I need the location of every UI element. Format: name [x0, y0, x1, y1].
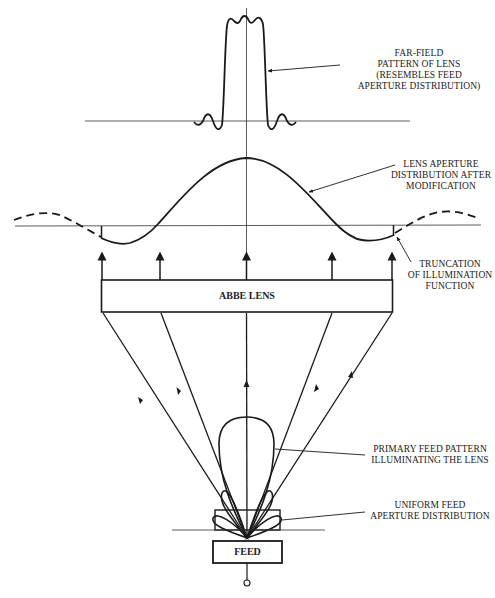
aperture-leader: [309, 165, 395, 192]
primary-feed-leader: [275, 449, 365, 455]
far-field-leader: [268, 65, 340, 71]
incident-rays: [103, 313, 392, 538]
truncation-annotation: TRUNCATION OF ILLUMINATION FUNCTION: [405, 259, 495, 292]
emerging-rays: [102, 256, 392, 280]
abbe-lens-label: ABBE LENS: [101, 290, 393, 301]
primary-feed-annotation: PRIMARY FEED PATTERN ILLUMINATING THE LE…: [366, 444, 494, 466]
uniform-feed-leader: [282, 512, 365, 520]
lens-aperture-annotation: LENS APERTURE DISTRIBUTION AFTER MODIFIC…: [388, 159, 494, 192]
feed-port-icon: [244, 580, 250, 586]
aperture-baseline: [15, 225, 481, 226]
feed-label: FEED: [213, 546, 282, 557]
uniform-feed-annotation: UNIFORM FEED APERTURE DISTRIBUTION: [366, 500, 494, 522]
far-field-annotation: FAR-FIELD PATTERN OF LENS (RESEMBLES FEE…: [344, 48, 494, 92]
